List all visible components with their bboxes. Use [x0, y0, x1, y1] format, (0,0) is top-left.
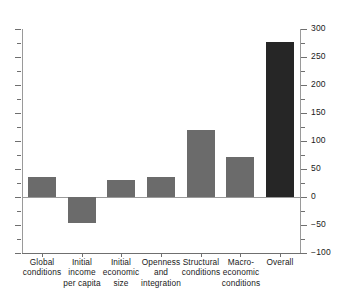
left-tick-175	[17, 99, 21, 100]
bar	[68, 197, 96, 223]
left-tick-75	[17, 155, 21, 156]
left-tick--50	[15, 225, 21, 226]
right-tick-250	[301, 57, 307, 58]
y-axis-label--50: −50	[311, 220, 326, 229]
right-tick--100	[301, 253, 307, 254]
y-axis-label-50: 50	[311, 164, 321, 173]
right-tick-175	[301, 99, 305, 100]
right-tick-125	[301, 127, 305, 128]
left-tick-125	[17, 127, 21, 128]
left-tick--100	[15, 253, 21, 254]
y-axis-label-100: 100	[311, 136, 326, 145]
category-label: Overall	[256, 257, 304, 267]
y-axis-label-0: 0	[311, 192, 316, 201]
right-tick--75	[301, 239, 305, 240]
left-tick-100	[15, 141, 21, 142]
bar	[107, 180, 135, 197]
y-axis-label-150: 150	[311, 108, 326, 117]
left-tick-275	[17, 43, 21, 44]
right-tick-25	[301, 183, 305, 184]
bar	[187, 130, 215, 197]
right-tick-300	[301, 29, 307, 30]
left-tick-50	[15, 169, 21, 170]
right-tick-100	[301, 141, 307, 142]
left-axis-spine	[22, 29, 23, 253]
left-tick--75	[17, 239, 21, 240]
bar-chart: 300250200150100500−50−100 Global conditi…	[0, 0, 346, 303]
left-tick--25	[17, 211, 21, 212]
right-tick-275	[301, 43, 305, 44]
right-tick-50	[301, 169, 307, 170]
y-axis-label-200: 200	[311, 80, 326, 89]
right-tick-200	[301, 85, 307, 86]
right-tick--25	[301, 211, 305, 212]
zero-baseline	[22, 197, 301, 198]
left-tick-225	[17, 71, 21, 72]
right-tick-0	[301, 197, 307, 198]
left-tick-0	[15, 197, 21, 198]
y-axis-label-250: 250	[311, 52, 326, 61]
right-tick-150	[301, 113, 307, 114]
left-tick-150	[15, 113, 21, 114]
y-axis-label-300: 300	[311, 24, 326, 33]
y-axis-label--100: −100	[311, 248, 331, 257]
bar	[147, 177, 175, 197]
bar	[226, 157, 254, 197]
bar	[266, 42, 294, 197]
left-tick-200	[15, 85, 21, 86]
x-axis-category-labels: Global conditionsInitial income per capi…	[22, 257, 301, 303]
right-tick--50	[301, 225, 307, 226]
right-tick-225	[301, 71, 305, 72]
left-tick-250	[15, 57, 21, 58]
left-tick-25	[17, 183, 21, 184]
right-tick-75	[301, 155, 305, 156]
bar	[28, 177, 56, 197]
left-tick-300	[15, 29, 21, 30]
